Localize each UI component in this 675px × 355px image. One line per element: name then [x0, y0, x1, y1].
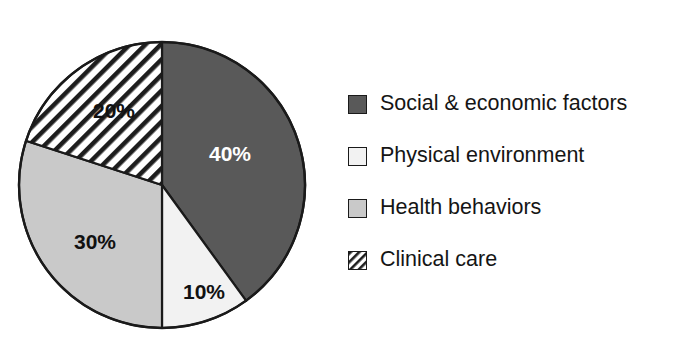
pie-value-label-10pct: 10%	[183, 280, 225, 303]
pie-chart-svg: 40%10%30%20%	[0, 0, 340, 355]
legend-item-clinical-care[interactable]: Clinical care	[348, 234, 668, 286]
legend-item-social-economic-factors[interactable]: Social & economic factors	[348, 78, 668, 130]
legend-swatch-clinical-care	[348, 251, 367, 270]
legend-label-social-economic-factors: Social & economic factors	[380, 93, 627, 115]
legend-label-health-behaviors: Health behaviors	[380, 197, 541, 219]
pie-chart-figure: 40%10%30%20% Social & economic factors P…	[0, 0, 675, 355]
legend-item-health-behaviors[interactable]: Health behaviors	[348, 182, 668, 234]
legend-swatch-health-behaviors	[348, 199, 367, 218]
legend-label-physical-environment: Physical environment	[380, 145, 584, 167]
chart-legend: Social & economic factors Physical envir…	[348, 78, 668, 286]
legend-swatch-social-economic-factors	[348, 95, 367, 114]
pie-chart: 40%10%30%20%	[0, 0, 340, 355]
pie-value-label-20pct: 20%	[93, 99, 135, 122]
legend-item-physical-environment[interactable]: Physical environment	[348, 130, 668, 182]
pie-value-label-40pct: 40%	[209, 142, 251, 165]
legend-label-clinical-care: Clinical care	[380, 249, 497, 271]
pie-value-label-30pct: 30%	[74, 230, 116, 253]
pie-slices	[19, 42, 305, 328]
legend-swatch-physical-environment	[348, 147, 367, 166]
